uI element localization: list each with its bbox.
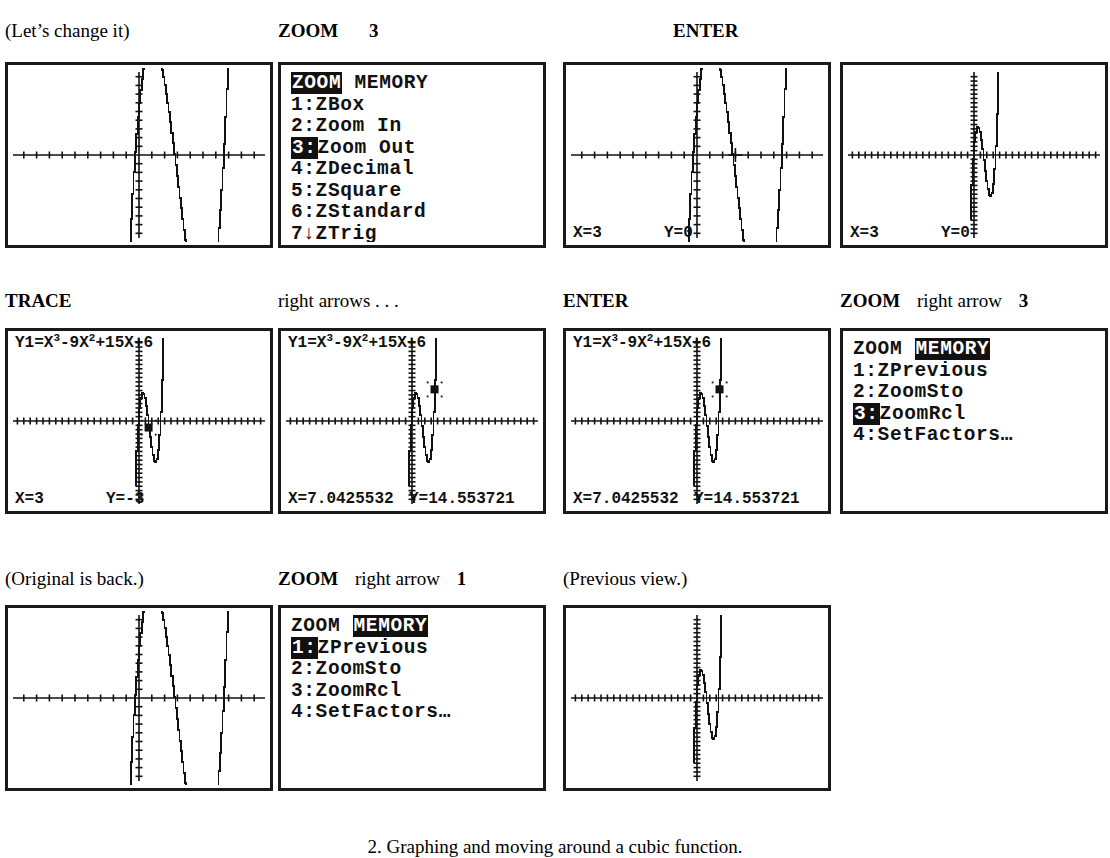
menu-item-number: 2: [853, 381, 878, 403]
trace-expression-label: Y1=X3-9X2+15X+6 [288, 335, 426, 352]
zoom-menu-body: ZOOM MEMORY1:ZPrevious2:ZoomSto3:ZoomRcl… [284, 611, 540, 785]
screen-inner: ZOOM MEMORY1:ZBox2:Zoom In3:Zoom Out4:ZD… [284, 68, 540, 242]
menu-item-number: 1: [291, 94, 316, 116]
menu-item-number: 2: [291, 115, 316, 137]
status-y-value: Y=14.553721 [694, 490, 800, 508]
menu-tab-memory[interactable]: MEMORY [915, 338, 991, 360]
hdr-zoom-rightarrow-1: ZOOM right arrow 1 [278, 568, 466, 590]
figure-caption: 2. Graphing and moving around a cubic fu… [0, 836, 1110, 858]
graph-zoomed-out[interactable]: X=3Y=0 [840, 62, 1108, 248]
menu-item[interactable]: 4:SetFactors… [291, 702, 540, 724]
menu-item-number: 3: [853, 403, 880, 425]
menu-item[interactable]: 2:Zoom In [291, 116, 540, 138]
hdr-key-1: 1 [457, 568, 467, 589]
hdr-key-zoom: ZOOM [278, 20, 338, 41]
menu-item-number: 1: [853, 360, 878, 382]
menu-item[interactable]: 7↓ZTrig [291, 224, 540, 243]
row-3-headers: (Original is back.) ZOOM right arrow 1 (… [0, 543, 1110, 603]
graph-original-standard[interactable] [5, 62, 273, 248]
menu-tab-row: ZOOM MEMORY [853, 339, 1102, 361]
menu-tab-row: ZOOM MEMORY [291, 616, 540, 638]
hdr-key-zoom-3: ZOOM [278, 568, 338, 589]
screen-inner: X=3Y=0 [569, 68, 825, 242]
status-y-value: Y=-3 [106, 490, 144, 508]
hdr-original-is-back: (Original is back.) [5, 568, 144, 590]
hdr-right-arrows: right arrows . . . [278, 290, 399, 312]
menu-item[interactable]: 2:ZoomSto [291, 659, 540, 681]
menu-item-label: ZBox [316, 94, 365, 116]
menu-tab-zoom[interactable]: ZOOM [291, 615, 340, 637]
zoom-menu-memory-tab-zoomrcl[interactable]: ZOOM MEMORY1:ZPrevious2:ZoomSto3:ZoomRcl… [840, 328, 1108, 514]
menu-tab-memory[interactable]: MEMORY [353, 615, 429, 637]
menu-item[interactable]: 4:ZDecimal [291, 159, 540, 181]
trace-expression-label: Y1=X3-9X2+15X+6 [15, 335, 153, 352]
menu-item-number: 6: [291, 201, 316, 223]
hdr-key-3: 3 [369, 20, 379, 41]
graph-trace-entered[interactable]: Y1=X3-9X2+15X+6X=7.0425532Y=14.553721 [563, 328, 831, 514]
menu-item-label: ZTrig [316, 223, 378, 243]
zoom-menu-memory-tab-zprevious[interactable]: ZOOM MEMORY1:ZPrevious2:ZoomSto3:ZoomRcl… [278, 605, 546, 791]
status-x-value: X=7.0425532 [573, 490, 679, 508]
menu-item[interactable]: 3:ZoomRcl [853, 404, 1102, 426]
menu-tab-zoom[interactable]: ZOOM [853, 338, 902, 360]
hdr-key-zoom-2: ZOOM [840, 290, 900, 311]
status-x-value: X=3 [15, 490, 44, 508]
graph-trace-moved[interactable]: Y1=X3-9X2+15X+6X=7.0425532Y=14.553721 [278, 328, 546, 514]
menu-item-label: ZoomSto [878, 381, 964, 403]
menu-item[interactable]: 1:ZPrevious [853, 361, 1102, 383]
menu-item-label: Zoom Out [318, 137, 416, 159]
hdr-lets-change-it: (Let’s change it) [5, 20, 130, 42]
menu-item[interactable]: 5:ZSquare [291, 181, 540, 203]
trace-expression-label: Y1=X3-9X2+15X+6 [573, 335, 711, 352]
hdr-zoom-rightarrow-3: ZOOM right arrow 3 [840, 290, 1028, 312]
menu-item[interactable]: 6:ZStandard [291, 202, 540, 224]
screen-inner: X=3Y=0 [846, 68, 1102, 242]
status-x-value: X=7.0425532 [288, 490, 394, 508]
menu-tab-row: ZOOM MEMORY [291, 73, 540, 95]
status-x-value: X=3 [573, 224, 602, 242]
screen-inner: Y1=X3-9X2+15X+6X=7.0425532Y=14.553721 [569, 334, 825, 508]
zoom-menu-body: ZOOM MEMORY1:ZPrevious2:ZoomSto3:ZoomRcl… [846, 334, 1102, 508]
hdr-key-3-2: 3 [1019, 290, 1029, 311]
screen-inner: ZOOM MEMORY1:ZPrevious2:ZoomSto3:ZoomRcl… [846, 334, 1102, 508]
menu-item-label: ZDecimal [316, 158, 414, 180]
graph-zoom-out-cursor[interactable]: X=3Y=0 [563, 62, 831, 248]
menu-item-number: 5: [291, 180, 316, 202]
screen-inner [11, 68, 267, 242]
menu-item-number: 3: [291, 137, 318, 159]
menu-item[interactable]: 1:ZPrevious [291, 638, 540, 660]
screen-inner: ZOOM MEMORY1:ZPrevious2:ZoomSto3:ZoomRcl… [284, 611, 540, 785]
graph-trace-start[interactable]: Y1=X3-9X2+15X+6X=3Y=-3 [5, 328, 273, 514]
menu-item-label: SetFactors… [878, 424, 1013, 446]
menu-item-number: 7↓ [291, 223, 316, 243]
menu-item[interactable]: 4:SetFactors… [853, 425, 1102, 447]
menu-item[interactable]: 3:Zoom Out [291, 138, 540, 160]
screen-inner: Y1=X3-9X2+15X+6X=3Y=-3 [11, 334, 267, 508]
screen-inner: Y1=X3-9X2+15X+6X=7.0425532Y=14.553721 [284, 334, 540, 508]
menu-tab-memory[interactable]: MEMORY [355, 72, 429, 94]
menu-item-number: 1: [291, 637, 318, 659]
status-y-value: Y=0 [941, 224, 970, 242]
hdr-zoom-3: ZOOM 3 [278, 20, 378, 42]
menu-item-number: 4: [291, 158, 316, 180]
menu-item[interactable]: 3:ZoomRcl [291, 681, 540, 703]
menu-item-number: 3: [291, 680, 316, 702]
screen-inner [11, 611, 267, 785]
status-y-value: Y=14.553721 [409, 490, 515, 508]
menu-item[interactable]: 1:ZBox [291, 95, 540, 117]
zoom-menu-zoom-tab[interactable]: ZOOM MEMORY1:ZBox2:Zoom In3:Zoom Out4:ZD… [278, 62, 546, 248]
menu-item-label: ZPrevious [878, 360, 989, 382]
graph-previous-view[interactable] [563, 605, 831, 791]
row-1-headers: (Let’s change it) ZOOM 3 ENTER [0, 0, 1110, 60]
menu-item-label: ZPrevious [318, 637, 429, 659]
menu-item[interactable]: 2:ZoomSto [853, 382, 1102, 404]
graph-original-restored[interactable] [5, 605, 273, 791]
row-2-headers: TRACE right arrows . . . ENTER ZOOM righ… [0, 266, 1110, 326]
menu-item-label: Zoom In [316, 115, 402, 137]
hdr-previous-view: (Previous view.) [563, 568, 687, 590]
menu-item-label: ZoomSto [316, 658, 402, 680]
hdr-enter-1: ENTER [673, 20, 738, 42]
menu-tab-zoom[interactable]: ZOOM [291, 72, 342, 94]
hdr-enter-2: ENTER [563, 290, 628, 312]
menu-item-number: 4: [853, 424, 878, 446]
